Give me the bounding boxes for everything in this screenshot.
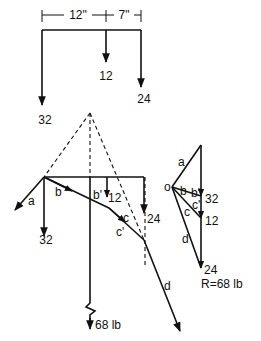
load-label-24: 24 [147, 212, 161, 226]
resultant-label: R=68 lb [201, 277, 243, 291]
dimension-label-12in: 12" [69, 8, 87, 22]
ray-label-c: c [184, 205, 190, 219]
ray-label-a: a [178, 155, 185, 169]
load-label-24: 24 [137, 92, 151, 106]
ray-label-c-prime: c' [192, 198, 200, 212]
load-label-32: 32 [205, 192, 219, 206]
string-d [144, 240, 180, 331]
string-label-b: b [55, 185, 62, 199]
load-label-12: 12 [205, 214, 219, 228]
load-label-24: 24 [204, 263, 218, 277]
funicular-polygon: a b b' c c' d 32 12 24 68 lb [15, 113, 180, 332]
string-label-b-prime: b' [93, 188, 102, 202]
ray-a [172, 145, 201, 187]
ray-label-d: d [182, 232, 189, 246]
load-label-12: 12 [99, 69, 113, 83]
ray-label-b: b [180, 184, 187, 198]
string-label-a: a [28, 194, 35, 208]
load-label-32: 32 [38, 113, 52, 127]
force-polygon: o a b b' c c' d 32 12 24 R=68 lb [164, 145, 243, 291]
load-label-12: 12 [108, 191, 122, 205]
load-label-32: 32 [39, 233, 53, 247]
resultant-label: 68 lb [95, 318, 121, 332]
dimension-label-7in: 7" [119, 8, 130, 22]
string-label-d: d [164, 279, 171, 293]
string-label-c: c [123, 211, 129, 225]
string-label-c-prime: c' [116, 225, 124, 239]
beam-diagram: 12" 7" 32 12 24 [38, 8, 151, 127]
graphic-statics-diagram: 12" 7" 32 12 24 a b b' c c' d 32 [0, 0, 261, 341]
pole-label-o: o [164, 180, 171, 194]
